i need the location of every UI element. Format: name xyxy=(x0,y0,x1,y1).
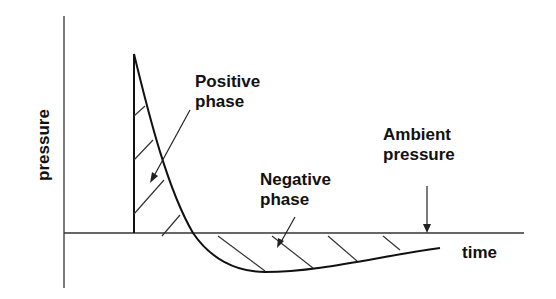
x-axis-label: time xyxy=(462,243,497,263)
ambient-pressure-arrow xyxy=(423,186,431,233)
negative-phase-label: Negative phase xyxy=(260,170,331,210)
positive-phase-label-line1: Positive xyxy=(195,72,260,92)
positive-phase-arrow xyxy=(150,110,190,183)
positive-phase-label: Positive phase xyxy=(195,72,260,112)
ambient-pressure-label: Ambient pressure xyxy=(383,125,455,165)
positive-phase-label-line2: phase xyxy=(195,92,260,112)
ambient-pressure-label-line2: pressure xyxy=(383,145,455,165)
y-axis-label: pressure xyxy=(34,109,54,181)
negative-phase-hatch xyxy=(218,236,400,271)
ambient-pressure-label-line1: Ambient xyxy=(383,125,455,145)
blast-wave-diagram: pressure Positive phase Negative phase A… xyxy=(0,0,556,299)
negative-phase-label-line1: Negative xyxy=(260,170,331,190)
negative-phase-label-line2: phase xyxy=(260,190,331,210)
